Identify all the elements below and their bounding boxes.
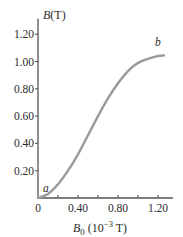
x-tick-label: 0.80 xyxy=(108,202,128,214)
x-tick-label: 1.20 xyxy=(148,202,168,214)
b-vs-b0-chart: 0.200.400.600.801.001.2000.400.801.20 a … xyxy=(0,0,183,237)
x-axis-title: B0 (10−3 T) xyxy=(73,219,127,237)
point-b-label: b xyxy=(155,36,161,48)
magnetization-curve xyxy=(38,55,164,198)
y-tick-label: 0.80 xyxy=(14,83,34,95)
axes xyxy=(38,19,173,198)
y-tick-label: 0.20 xyxy=(14,165,34,177)
y-tick-label: 0.40 xyxy=(14,137,34,149)
point-a-label: a xyxy=(43,182,49,194)
x-tick-label: 0.40 xyxy=(68,202,88,214)
x-tick-label: 0 xyxy=(35,202,41,214)
y-tick-label: 1.00 xyxy=(14,56,34,68)
y-tick-label: 0.60 xyxy=(14,110,34,122)
ticks: 0.200.400.600.801.001.2000.400.801.20 xyxy=(14,28,168,214)
y-axis-title: B(T) xyxy=(43,8,66,22)
y-tick-label: 1.20 xyxy=(14,28,34,40)
